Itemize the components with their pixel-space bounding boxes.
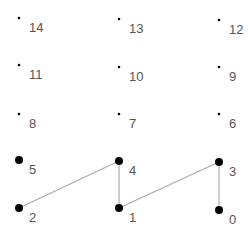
- node-label: 5: [29, 162, 36, 177]
- node-label: 11: [29, 67, 43, 82]
- node-label: 10: [129, 69, 143, 84]
- node-dot: [18, 17, 21, 20]
- node-9: 9: [218, 66, 237, 84]
- node-label: 0: [229, 212, 236, 227]
- node-label: 1: [129, 210, 136, 225]
- node-dot: [115, 204, 123, 212]
- node-label: 14: [29, 20, 43, 35]
- node-dot: [15, 156, 23, 164]
- node-12: 12: [218, 19, 244, 37]
- node-label: 13: [129, 21, 143, 36]
- node-dot: [18, 64, 21, 67]
- node-2: 2: [15, 204, 36, 225]
- node-6: 6: [218, 113, 237, 131]
- node-11: 11: [18, 64, 43, 82]
- node-label: 6: [229, 116, 236, 131]
- node-dot: [215, 158, 223, 166]
- node-7: 7: [118, 113, 137, 131]
- node-0: 0: [215, 206, 236, 227]
- node-13: 13: [118, 18, 144, 36]
- node-label: 8: [29, 116, 36, 131]
- node-label: 7: [129, 116, 136, 131]
- node-dot: [218, 19, 221, 22]
- node-dot: [215, 206, 223, 214]
- node-label: 2: [29, 210, 36, 225]
- node-label: 9: [229, 69, 236, 84]
- node-label: 12: [229, 22, 243, 37]
- node-dot: [18, 113, 21, 116]
- node-14: 14: [18, 17, 44, 35]
- node-label: 4: [129, 163, 136, 178]
- node-5: 5: [15, 156, 36, 177]
- node-3: 3: [215, 158, 236, 179]
- nodes-layer: 01234567891011121314: [15, 17, 243, 227]
- node-4: 4: [115, 157, 136, 178]
- node-dot: [118, 66, 121, 69]
- node-8: 8: [18, 113, 37, 131]
- node-dot: [218, 113, 221, 116]
- edges-layer: [19, 161, 219, 210]
- node-label: 3: [229, 164, 236, 179]
- node-dot: [115, 157, 123, 165]
- node-1: 1: [115, 204, 136, 225]
- node-dot: [118, 113, 121, 116]
- graph-canvas: 01234567891011121314: [0, 0, 251, 240]
- node-10: 10: [118, 66, 144, 84]
- node-dot: [15, 204, 23, 212]
- node-dot: [118, 18, 121, 21]
- node-dot: [218, 66, 221, 69]
